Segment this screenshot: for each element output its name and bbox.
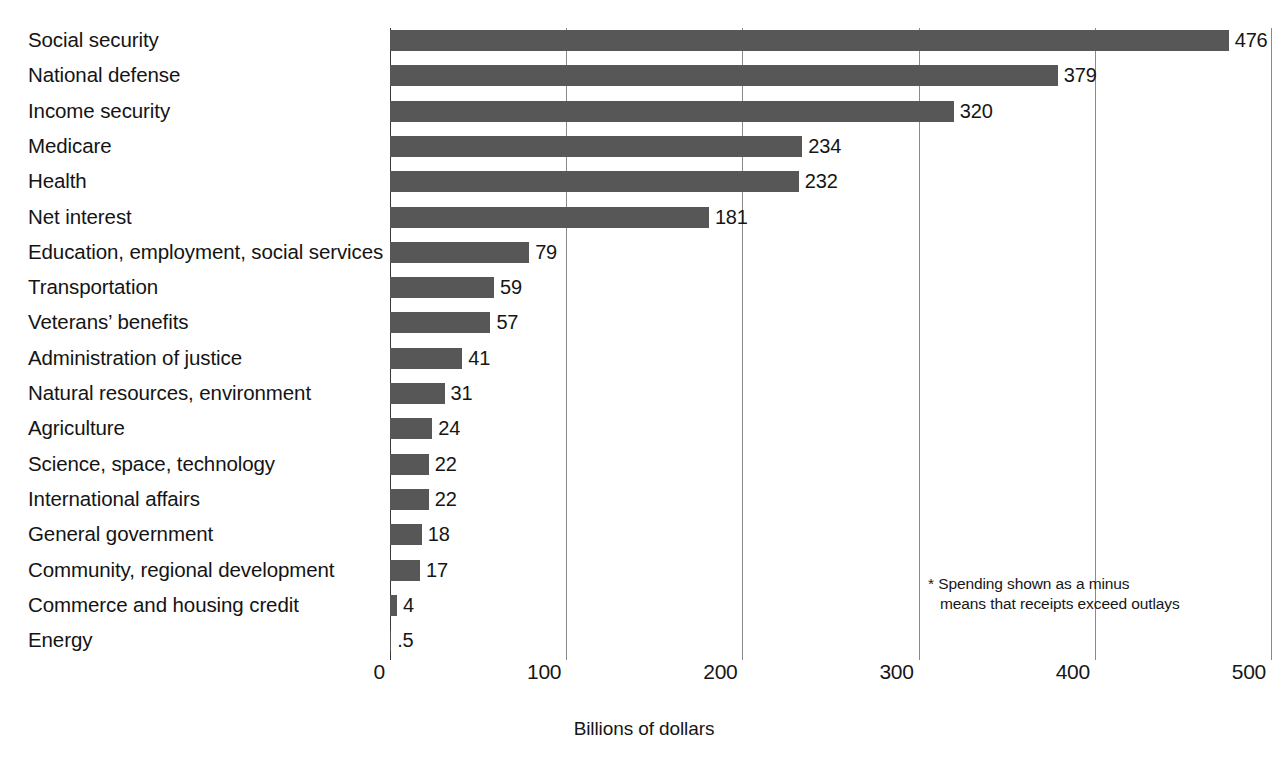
bar-value-label: 41 [468, 346, 490, 371]
category-label: Net interest [0, 203, 376, 238]
bar-value-label: 22 [435, 487, 457, 512]
bar-row[interactable]: 41 [390, 346, 1271, 381]
bar[interactable] [390, 383, 445, 404]
x-tick-0: 0 [374, 660, 390, 684]
bar[interactable] [390, 171, 799, 192]
bar-value-label: 18 [428, 522, 450, 547]
bar-row[interactable]: 234 [390, 134, 1271, 169]
x-axis-title: Billions of dollars [0, 718, 1288, 740]
x-tick-200: 200 [703, 660, 742, 684]
category-label: Income security [0, 97, 376, 132]
bar-row[interactable]: 181 [390, 205, 1271, 240]
category-label: Commerce and housing credit [0, 591, 376, 626]
bar-value-label: 379 [1064, 63, 1097, 88]
bar-value-label: 24 [438, 416, 460, 441]
bar-row[interactable]: 476 [390, 28, 1271, 63]
bar-value-label: 234 [808, 134, 841, 159]
category-label: Transportation [0, 273, 376, 308]
bar-value-label: 4 [403, 593, 414, 618]
bar-row[interactable]: 59 [390, 275, 1271, 310]
footnote-line-1: * Spending shown as a minus [928, 574, 1258, 594]
bar-value-label: .5 [397, 628, 413, 653]
category-label: Community, regional development [0, 556, 376, 591]
footnote: * Spending shown as a minus means that r… [928, 574, 1258, 613]
category-label: Health [0, 167, 376, 202]
bar-row[interactable]: 379 [390, 63, 1271, 98]
bar[interactable] [390, 348, 462, 369]
bar-row[interactable]: 18 [390, 522, 1271, 557]
bar-value-label: 320 [960, 99, 993, 124]
bar-row[interactable]: 22 [390, 487, 1271, 522]
category-label: Science, space, technology [0, 450, 376, 485]
bar[interactable] [390, 30, 1229, 51]
bar-value-label: 22 [435, 452, 457, 477]
bar-rows: 476379320234232181795957413124222218174.… [390, 28, 1271, 660]
category-label: Medicare [0, 132, 376, 167]
bar-value-label: 57 [496, 310, 518, 335]
bar-row[interactable]: 31 [390, 381, 1271, 416]
bar-row[interactable]: 22 [390, 452, 1271, 487]
category-label: General government [0, 520, 376, 555]
x-tick-100: 100 [527, 660, 566, 684]
bar[interactable] [390, 277, 494, 298]
bar[interactable] [390, 136, 802, 157]
bar[interactable] [390, 524, 422, 545]
bar-row[interactable]: 232 [390, 169, 1271, 204]
category-label: Energy [0, 626, 376, 661]
bar[interactable] [390, 418, 432, 439]
bar-row[interactable]: 79 [390, 240, 1271, 275]
bar-row[interactable]: 57 [390, 310, 1271, 345]
bar[interactable] [390, 65, 1058, 86]
bar-value-label: 17 [426, 558, 448, 583]
category-label: National defense [0, 61, 376, 96]
bar[interactable] [390, 312, 490, 333]
x-tick-300: 300 [879, 660, 918, 684]
bar-value-label: 79 [535, 240, 557, 265]
category-label-column: Social securityNational defenseIncome se… [0, 28, 376, 660]
budget-outlays-bar-chart: Social securityNational defenseIncome se… [0, 0, 1288, 772]
bar-row[interactable]: 320 [390, 99, 1271, 134]
footnote-line-2: means that receipts exceed outlays [928, 594, 1258, 614]
category-label: Veterans’ benefits [0, 308, 376, 343]
x-tick-500: 500 [1232, 660, 1271, 684]
x-axis-tick-labels: 0100200300400500 [0, 660, 1288, 700]
gridline-500 [1271, 28, 1272, 660]
bar[interactable] [390, 489, 429, 510]
bar-value-label: 232 [805, 169, 838, 194]
bar-value-label: 476 [1235, 28, 1268, 53]
bar-value-label: 181 [715, 205, 748, 230]
category-label: Education, employment, social services [0, 238, 376, 273]
bar-row[interactable]: 24 [390, 416, 1271, 451]
bar-value-label: 59 [500, 275, 522, 300]
category-label: Social security [0, 26, 376, 61]
category-label: Natural resources, environment [0, 379, 376, 414]
bar[interactable] [390, 242, 529, 263]
category-label: International affairs [0, 485, 376, 520]
bar[interactable] [390, 595, 397, 616]
bar[interactable] [390, 101, 954, 122]
bar[interactable] [390, 454, 429, 475]
bar-row[interactable]: .5 [390, 628, 1271, 663]
bar[interactable] [390, 207, 709, 228]
category-label: Administration of justice [0, 344, 376, 379]
category-label: Agriculture [0, 414, 376, 449]
bar-value-label: 31 [451, 381, 473, 406]
x-tick-400: 400 [1056, 660, 1095, 684]
plot-area: 476379320234232181795957413124222218174.… [390, 28, 1271, 660]
bar[interactable] [390, 560, 420, 581]
bar[interactable] [390, 630, 391, 651]
